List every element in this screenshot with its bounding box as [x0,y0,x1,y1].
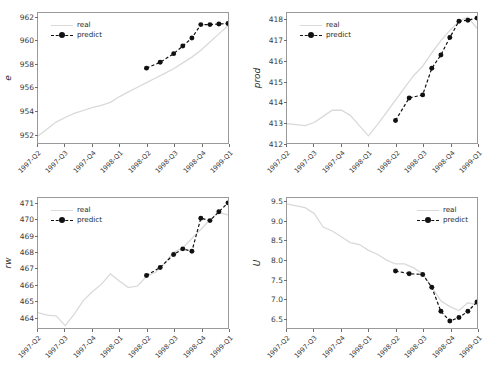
plot-area-U: real predict [286,197,478,329]
y-tick-label: 8.0 [271,256,283,265]
x-tick-mark [229,144,230,147]
x-tick-mark [451,144,452,147]
y-tick-label: 466 [20,280,34,289]
y-tick-label: 952 [20,130,34,139]
legend-row-real: real [417,205,468,215]
legend-row-predict: predict [51,215,102,225]
data-point-marker [189,249,194,254]
legend-label-predict: predict [443,215,468,225]
data-point-marker [456,19,461,24]
x-tick-mark [423,329,424,332]
data-point-marker [226,200,228,205]
x-tick-mark [147,329,148,332]
series-line-predict [395,271,477,321]
x-tick-mark [313,329,314,332]
y-tick-mark [35,111,38,112]
legend-row-real: real [51,205,102,215]
x-tick-mark [174,329,175,332]
data-point-marker [420,92,425,97]
y-tick-label: 958 [20,59,34,68]
legend-e: real predict [48,18,106,42]
x-tick-mark [92,329,93,332]
x-tick-mark [119,329,120,332]
y-tick-label: 960 [20,36,34,45]
y-tick-mark [284,19,287,20]
y-tick-label: 417 [269,36,283,45]
y-tick-mark [284,240,287,241]
data-point-marker [198,22,203,27]
y-tick-label: 467 [20,264,34,273]
x-tick-mark [37,144,38,147]
series-line-real [38,213,228,326]
data-point-marker [438,53,443,58]
data-point-marker [207,218,212,223]
legend-swatch-predict [51,31,73,39]
y-tick-mark [284,280,287,281]
x-ticks-rw: 1997-Q21997-Q31997-Q41998-Q11998-Q21998-… [37,329,229,371]
data-point-marker [144,273,149,278]
x-tick-mark [119,144,120,147]
data-point-marker [447,35,452,40]
y-tick-label: 6.5 [271,315,283,324]
x-tick-mark [202,144,203,147]
x-tick-mark [341,329,342,332]
data-point-marker [171,252,176,257]
legend-swatch-real [417,206,439,214]
y-tick-mark [284,123,287,124]
y-tick-mark [284,144,287,145]
data-point-marker [475,16,477,21]
data-point-marker [429,66,434,71]
y-tick-mark [284,299,287,300]
y-tick-label: 414 [269,98,283,107]
data-point-marker [226,21,228,26]
x-tick-mark [64,329,65,332]
y-tick-mark [35,219,38,220]
legend-U: real predict [414,203,472,227]
legend-swatch-predict [417,216,439,224]
y-tick-label: 465 [20,297,34,306]
legend-swatch-real [300,21,322,29]
y-ticks-U: 6.57.07.58.08.59.09.5 [249,197,283,329]
legend-label-predict: predict [326,30,351,40]
x-tick-mark [286,329,287,332]
y-tick-label: 412 [269,140,283,149]
y-tick-label: 7.0 [271,295,283,304]
data-point-marker [447,319,452,324]
y-tick-mark [35,203,38,204]
y-tick-mark [284,319,287,320]
x-tick-mark [313,144,314,147]
data-point-marker [420,272,425,277]
x-tick-mark [37,329,38,332]
x-tick-mark [92,144,93,147]
y-tick-label: 9.5 [271,196,283,205]
legend-row-predict: predict [300,30,351,40]
legend-row-predict: predict [417,215,468,225]
data-point-marker [465,18,470,23]
panel-U: U 6.57.07.58.08.59.09.5 real predict 199… [249,185,498,371]
y-tick-label: 9.0 [271,216,283,225]
y-ticks-rw: 464465466467468469470471 [0,197,34,329]
x-tick-mark [396,329,397,332]
legend-label-predict: predict [77,215,102,225]
y-tick-label: 7.5 [271,275,283,284]
y-tick-mark [35,252,38,253]
legend-label-predict: predict [77,30,102,40]
y-tick-label: 956 [20,83,34,92]
panel-prod: prod 412413414415416417418 real predict … [249,0,498,186]
legend-row-real: real [51,20,102,30]
y-tick-label: 413 [269,119,283,128]
legend-row-real: real [300,20,351,30]
data-point-marker [171,51,176,56]
x-tick-mark [202,329,203,332]
x-tick-mark [478,144,479,147]
y-tick-mark [35,40,38,41]
y-tick-label: 8.5 [271,236,283,245]
legend-rw: real predict [48,203,106,227]
y-tick-mark [284,82,287,83]
series-line-real [38,26,228,136]
y-tick-label: 418 [269,15,283,24]
data-point-marker [393,268,398,273]
figure-grid: e 952954956958960962 real predict 1997-Q… [0,0,498,371]
data-point-marker [180,44,185,49]
data-point-marker [393,118,398,123]
